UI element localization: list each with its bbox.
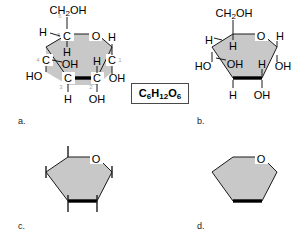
glucose-structures-figure: C C C C C O 5 4 3 2 1 6 CH2OH H H OH bbox=[0, 0, 305, 240]
ring-oxygen-label-d: O bbox=[257, 153, 266, 165]
h-c3-down-b: H bbox=[229, 89, 237, 101]
oh-c2-down-a: OH bbox=[89, 93, 106, 105]
carbon-number-3-a: 3 bbox=[59, 84, 63, 90]
h-c1-up-b: H bbox=[276, 30, 284, 42]
molecular-formula-text: C6H12O6 bbox=[139, 88, 181, 99]
panel-label-c: c. bbox=[18, 221, 25, 231]
formula-sub-o: 6 bbox=[177, 92, 181, 101]
ho-c4-left-a: HO bbox=[26, 70, 43, 82]
h-c1-up-a: H bbox=[108, 31, 116, 43]
oh-c4-inner-b: OH bbox=[227, 58, 244, 70]
formula-sub-h: 12 bbox=[159, 92, 168, 101]
panel-c-structure: O c. bbox=[18, 146, 112, 231]
h-c5-left-a: H bbox=[39, 26, 47, 38]
molecular-formula-box: C6H12O6 bbox=[131, 83, 189, 104]
panel-a-structure: C C C C C O 5 4 3 2 1 6 CH2OH H H OH bbox=[18, 4, 125, 126]
formula-element-o: O bbox=[168, 87, 177, 99]
ring-oxygen-label-b: O bbox=[257, 30, 266, 42]
oh-c1-right-a: OH bbox=[109, 72, 126, 84]
formula-element-c: C bbox=[139, 87, 147, 99]
h-c5-inner-a: H bbox=[63, 46, 71, 58]
carbon-number-4-a: 4 bbox=[36, 57, 40, 63]
ring-carbon-2-label-a: C bbox=[93, 72, 101, 84]
ring-carbon-5-label-a: C bbox=[63, 30, 71, 42]
panel-label-d: d. bbox=[197, 221, 205, 231]
oh-c2-down-b: OH bbox=[254, 89, 271, 101]
h-c2-inner-b: H bbox=[258, 58, 266, 70]
structures-canvas: C C C C C O 5 4 3 2 1 6 CH2OH H H OH bbox=[0, 0, 305, 240]
panel-label-b: b. bbox=[197, 116, 205, 126]
ring-carbon-4-label-a: C bbox=[42, 54, 50, 66]
ring-carbon-3-label-a: C bbox=[64, 72, 72, 84]
carbon-number-1-a: 1 bbox=[118, 57, 122, 63]
ring-oxygen-label-a: O bbox=[92, 30, 101, 42]
h-c2-inner-a: H bbox=[93, 55, 101, 67]
formula-sub-c: 6 bbox=[147, 92, 151, 101]
bond-c5-h-left-b bbox=[214, 38, 222, 40]
oh-c1-right-b: OH bbox=[275, 60, 292, 72]
panel-b-structure: O CH2OH H H OH HO H H OH bbox=[195, 7, 292, 126]
ring-carbon-1-label-a: C bbox=[108, 54, 116, 66]
panel-label-a: a. bbox=[18, 116, 26, 126]
ho-c4-left-b: HO bbox=[195, 60, 212, 72]
ring-oxygen-label-c: O bbox=[92, 153, 101, 165]
h-c5-inner-b: H bbox=[229, 40, 237, 52]
ch2oh-group-a: CH2OH bbox=[50, 4, 87, 18]
oh-c4-inner-a: OH bbox=[62, 58, 79, 70]
h-c5-left-b: H bbox=[205, 34, 213, 46]
h-c3-down-a: H bbox=[64, 93, 72, 105]
ch2oh-group-b: CH2OH bbox=[216, 7, 253, 21]
panel-d-structure: O d. bbox=[197, 152, 277, 231]
